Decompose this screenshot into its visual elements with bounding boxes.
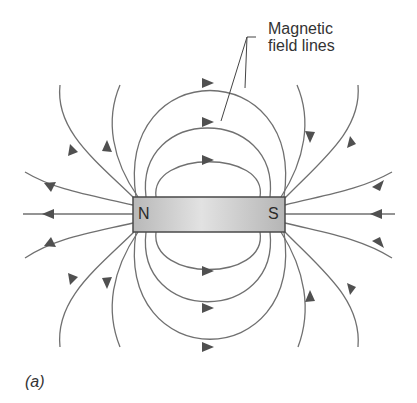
field-line-bottom-middle [145, 232, 270, 302]
bar-magnet [133, 197, 285, 232]
arrow-up-icon [347, 283, 356, 295]
arrow-left-icon [372, 180, 384, 191]
field-line-right-top-near [281, 85, 305, 197]
field-line-left-lower [25, 223, 133, 258]
bar-magnet-field-diagram [0, 0, 417, 403]
arrow-right-icon [202, 78, 214, 88]
south-pole-label: S [268, 206, 279, 222]
figure-caption: (a) [25, 373, 45, 391]
field-line-left-top-far [60, 85, 134, 198]
arrow-right-icon [202, 266, 214, 276]
north-pole-label: N [138, 206, 150, 222]
field-line-top-inner [156, 162, 261, 197]
field-line-top-outer [134, 91, 285, 198]
field-line-bottom-inner [156, 232, 261, 270]
arrow-up-icon [68, 144, 78, 156]
arrow-left-icon [44, 237, 56, 247]
arrow-right-icon [202, 303, 214, 313]
arrow-up-icon [305, 290, 315, 302]
field-line-right-bottom-far [285, 232, 358, 347]
field-line-left-bottom-far [60, 232, 134, 347]
arrow-left-icon [372, 237, 384, 248]
field-line-left-upper [25, 172, 133, 205]
callout-leader [221, 37, 256, 121]
callout-line-1: Magnetic [268, 20, 335, 37]
arrow-right-icon [202, 342, 214, 352]
field-line-right-top-far [285, 85, 358, 198]
field-lines-callout: Magnetic field lines [268, 20, 335, 54]
arrow-up-icon [102, 140, 112, 152]
arrow-left-icon [370, 209, 382, 219]
arrow-left-icon [44, 182, 56, 192]
field-line-bottom-outer [134, 232, 285, 339]
arrow-down-icon [305, 131, 315, 143]
callout-line-2: field lines [268, 37, 335, 54]
arrow-down-icon [68, 273, 78, 285]
arrow-down-icon [347, 136, 356, 148]
arrow-right-icon [202, 155, 214, 165]
arrow-down-icon [102, 277, 112, 289]
arrow-left-icon [42, 209, 54, 219]
arrow-right-icon [202, 117, 214, 127]
